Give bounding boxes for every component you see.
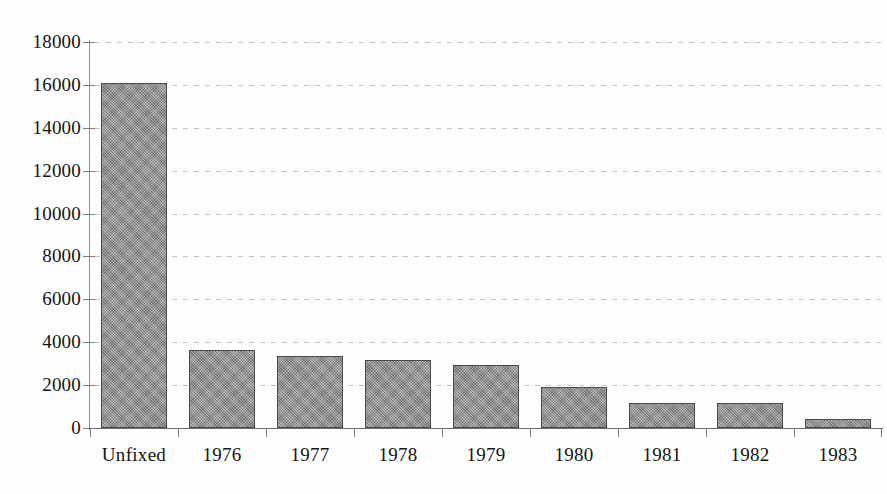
x-tick-label: Unfixed bbox=[90, 444, 178, 476]
x-tick-label: 1981 bbox=[618, 444, 706, 476]
x-tick-mark bbox=[881, 428, 882, 437]
x-axis-labels: Unfixed19761977197819791980198119821983 bbox=[90, 444, 882, 476]
x-tick-mark bbox=[178, 428, 179, 437]
x-tick-mark bbox=[794, 428, 795, 437]
x-tick-mark bbox=[706, 428, 707, 437]
x-tick-cell bbox=[618, 428, 706, 438]
y-tick-label: 18000 bbox=[33, 31, 82, 53]
y-tick-label: 16000 bbox=[33, 74, 82, 96]
x-axis-tick-marks bbox=[90, 428, 882, 438]
bar bbox=[101, 83, 167, 428]
x-tick-cell bbox=[530, 428, 618, 438]
y-tick-label: 12000 bbox=[33, 160, 82, 182]
x-tick-label: 1978 bbox=[354, 444, 442, 476]
y-tick-label: 10000 bbox=[33, 203, 82, 225]
bar bbox=[541, 387, 607, 428]
y-tick-label: 2000 bbox=[42, 374, 81, 396]
x-tick-cell bbox=[794, 428, 882, 438]
bar bbox=[453, 365, 519, 428]
x-tick-label: 1976 bbox=[178, 444, 266, 476]
bar bbox=[189, 350, 255, 428]
x-tick-mark bbox=[618, 428, 619, 437]
x-tick-label: 1980 bbox=[530, 444, 618, 476]
bar-slot bbox=[266, 42, 354, 428]
x-tick-cell bbox=[178, 428, 266, 438]
bar-slot bbox=[530, 42, 618, 428]
x-tick-mark bbox=[266, 428, 267, 437]
x-tick-mark bbox=[442, 428, 443, 437]
y-tick-label: 0 bbox=[71, 417, 81, 439]
x-tick-label: 1979 bbox=[442, 444, 530, 476]
x-tick-cell bbox=[706, 428, 794, 438]
y-tick-label: 14000 bbox=[33, 117, 82, 139]
bar-slot bbox=[178, 42, 266, 428]
bar-slot bbox=[90, 42, 178, 428]
x-tick-mark bbox=[90, 428, 91, 437]
bar bbox=[277, 356, 343, 428]
bars-layer bbox=[90, 42, 882, 428]
bar-slot bbox=[706, 42, 794, 428]
bar bbox=[805, 419, 871, 428]
bar bbox=[717, 403, 783, 428]
y-tick-label: 4000 bbox=[42, 331, 81, 353]
bar-slot bbox=[794, 42, 882, 428]
bar-slot bbox=[442, 42, 530, 428]
x-tick-cell bbox=[442, 428, 530, 438]
bar-chart-figure: 0200040006000800010000120001400016000180… bbox=[0, 0, 887, 494]
x-tick-cell bbox=[90, 428, 178, 438]
x-tick-cell bbox=[266, 428, 354, 438]
bar-slot bbox=[618, 42, 706, 428]
x-tick-cell bbox=[354, 428, 442, 438]
x-tick-label: 1977 bbox=[266, 444, 354, 476]
x-tick-label: 1983 bbox=[794, 444, 882, 476]
bar bbox=[629, 403, 695, 428]
y-tick-label: 8000 bbox=[42, 245, 81, 267]
x-tick-mark bbox=[530, 428, 531, 437]
bar bbox=[365, 360, 431, 428]
x-tick-mark bbox=[354, 428, 355, 437]
bar-slot bbox=[354, 42, 442, 428]
y-tick-label: 6000 bbox=[42, 288, 81, 310]
x-tick-label: 1982 bbox=[706, 444, 794, 476]
